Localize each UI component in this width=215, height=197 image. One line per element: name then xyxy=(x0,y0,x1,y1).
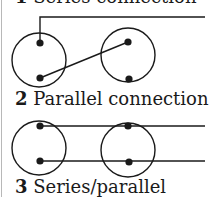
terminal-dot xyxy=(36,39,43,46)
terminal-dot xyxy=(36,74,43,81)
caption-parallel-connection: 2 Parallel connection xyxy=(15,90,209,108)
terminal-dot xyxy=(124,38,131,45)
caption-label: Parallel connection xyxy=(33,88,208,109)
caption-number: 3 xyxy=(15,176,28,197)
battery-connection-diagram: 1 Series connection 2 Paral xyxy=(0,0,215,197)
terminal-dot xyxy=(36,122,43,129)
terminal-dot xyxy=(125,158,132,165)
cell-2-right xyxy=(101,123,155,177)
series-link-wire xyxy=(40,42,128,78)
series-lead-wire xyxy=(40,17,205,43)
cell-1-right xyxy=(101,28,155,82)
terminal-dot xyxy=(124,122,131,129)
terminal-dot xyxy=(125,75,132,82)
caption-number: 2 xyxy=(15,88,28,109)
caption-series-parallel: 3 Series/parallel xyxy=(15,178,166,196)
terminal-dot xyxy=(36,157,43,164)
caption-label: Series/parallel xyxy=(33,176,166,197)
